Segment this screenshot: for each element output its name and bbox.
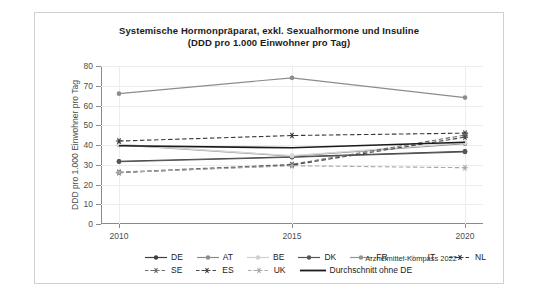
legend-item-label: DE — [171, 253, 183, 262]
legend-marker — [457, 255, 463, 260]
x-tick-label: 2020 — [456, 231, 475, 241]
legend-row-2: SEESUKDurchschnitt ohne DE — [101, 264, 505, 277]
legend-item-durchschnitt-ohne-de[interactable]: Durchschnitt ohne DE — [300, 266, 413, 275]
series-at — [117, 76, 468, 100]
legend-swatch-icon — [145, 266, 167, 275]
y-tick-label: 70 — [84, 81, 93, 91]
legend-item-label: ES — [222, 266, 233, 275]
x-tick — [292, 224, 293, 228]
y-tick-label: 30 — [84, 160, 93, 170]
x-tick — [119, 224, 120, 228]
y-tick-label: 20 — [84, 180, 93, 190]
legend-marker — [359, 255, 363, 259]
plot-area: 80706050403020100 201020152020 — [101, 66, 483, 224]
data-point — [117, 159, 122, 164]
chart-title: Systemische Hormonpräparat, exkl. Sexual… — [35, 25, 503, 49]
legend-swatch-icon — [196, 266, 218, 275]
data-point — [463, 150, 468, 155]
data-point — [289, 133, 295, 138]
series-nl — [116, 130, 468, 143]
series-line — [119, 133, 465, 141]
legend-item-label: UK — [274, 266, 286, 275]
chart-title-line1: Systemische Hormonpräparat, exkl. Sexual… — [35, 25, 503, 37]
legend-swatch-icon — [197, 253, 219, 262]
legend-item-label: Durchschnitt ohne DE — [330, 266, 413, 275]
legend-marker — [256, 268, 262, 273]
y-tick — [96, 224, 101, 225]
legend-item-label: BE — [273, 253, 284, 262]
data-point — [463, 95, 468, 100]
y-tick-label: 0 — [88, 219, 93, 229]
legend-item-label: AT — [223, 253, 233, 262]
y-tick-label: 60 — [84, 101, 93, 111]
legend-item-se[interactable]: SE — [145, 266, 182, 275]
legend-marker — [206, 255, 210, 259]
x-tick-label: 2015 — [283, 231, 302, 241]
y-tick-label: 10 — [84, 199, 93, 209]
data-point — [117, 91, 122, 96]
series-uk — [116, 163, 468, 175]
legend-marker — [256, 255, 260, 259]
x-tick-label: 2010 — [110, 231, 129, 241]
legend-swatch-icon — [145, 253, 167, 262]
legend-swatch-icon — [247, 253, 269, 262]
chart-frame: Systemische Hormonpräparat, exkl. Sexual… — [34, 12, 504, 284]
legend-item-at[interactable]: AT — [197, 253, 233, 262]
y-tick-label: 80 — [84, 61, 93, 71]
legend-item-label: DK — [324, 253, 336, 262]
legend-swatch-icon — [298, 253, 320, 262]
chart-title-line2: (DDD pro 1.000 Einwohner pro Tag) — [35, 37, 503, 49]
y-axis-title: DDD pro 1.000 Einwohner pro Tag — [70, 80, 80, 210]
legend-marker — [154, 255, 158, 259]
legend-swatch-icon — [248, 266, 270, 275]
legend-item-uk[interactable]: UK — [248, 266, 286, 275]
data-point — [116, 170, 122, 175]
data-point — [290, 153, 295, 158]
y-tick-label: 50 — [84, 120, 93, 130]
legend-item-es[interactable]: ES — [196, 266, 233, 275]
y-tick-label: 40 — [84, 140, 93, 150]
legend-item-de[interactable]: DE — [145, 253, 183, 262]
chart-credit: Arzneimittel-Kompass 2022 — [365, 254, 457, 263]
legend-marker — [204, 268, 210, 273]
series-it — [117, 140, 468, 158]
data-point — [462, 165, 468, 170]
legend-swatch-icon — [300, 266, 326, 275]
legend-item-label: SE — [171, 266, 182, 275]
data-point — [290, 76, 295, 81]
legend-marker — [153, 268, 159, 273]
legend-item-be[interactable]: BE — [247, 253, 284, 262]
legend-item-label: NL — [475, 253, 486, 262]
legend-marker — [307, 255, 311, 259]
x-tick — [465, 224, 466, 228]
series-line — [119, 78, 465, 98]
series-layer — [101, 66, 483, 224]
legend-item-dk[interactable]: DK — [298, 253, 336, 262]
